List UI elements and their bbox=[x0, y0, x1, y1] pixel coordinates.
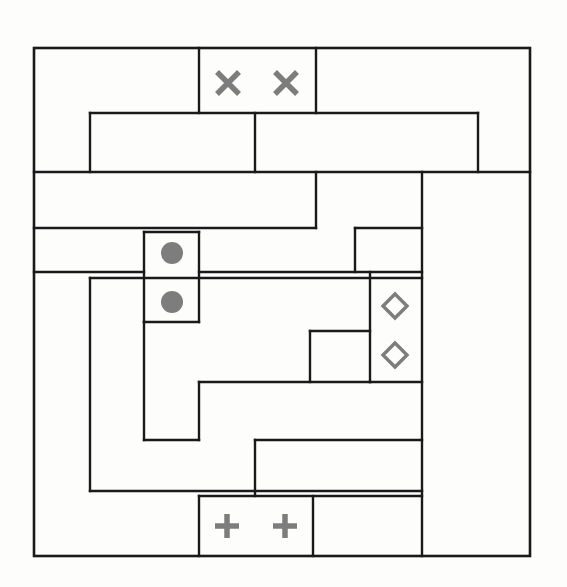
puzzle-canvas bbox=[0, 0, 567, 587]
marker-circle-1 bbox=[161, 242, 183, 264]
marker-circle-2 bbox=[161, 291, 183, 313]
puzzle-diagram bbox=[0, 0, 567, 587]
